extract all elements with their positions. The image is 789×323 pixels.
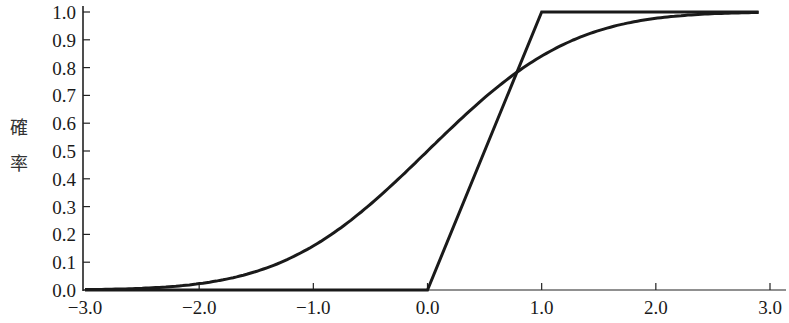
ylabel-char-2: 率 [10,153,28,174]
y-tick-label: 0.4 [52,169,76,190]
uniform-cdf-line [85,12,759,290]
probability-chart: 0.00.10.20.30.40.50.60.70.80.91.0 −3.0−2… [0,0,789,323]
x-tick-label: −2.0 [182,297,216,318]
x-tick-label: 2.0 [644,297,668,318]
y-tick-label: 0.1 [52,252,76,273]
y-tick-label: 0.3 [52,197,76,218]
y-axis-label: 確 率 [10,117,28,174]
y-tick-label: 0.5 [52,141,76,162]
y-tick-label: 0.8 [52,58,76,79]
y-tick-label: 0.6 [52,113,76,134]
y-tick-label: 1.0 [52,2,76,23]
plot-lines [85,12,759,290]
y-tick-label: 0.2 [52,224,76,245]
x-tick-label: −1.0 [296,297,330,318]
y-tick-label: 0.9 [52,30,76,51]
x-tick-label: −3.0 [68,297,102,318]
ylabel-char-1: 確 [10,117,28,138]
smooth-cdf-curve [85,13,759,290]
x-tick-label: 3.0 [758,297,782,318]
x-tick-label: 0.0 [416,297,440,318]
x-tick-label: 1.0 [530,297,554,318]
y-axis: 0.00.10.20.30.40.50.60.70.80.91.0 [52,2,90,301]
y-tick-label: 0.7 [52,85,76,106]
